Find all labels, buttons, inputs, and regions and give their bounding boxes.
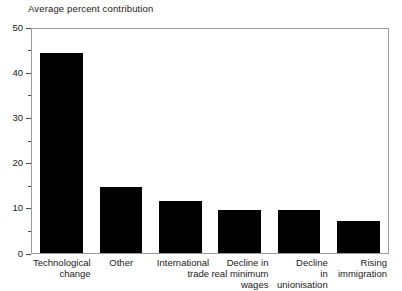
bar [337,221,380,253]
tick-mark [28,231,31,232]
tick-mark [28,141,31,142]
x-axis-label-line: immigration [330,268,387,279]
y-axis-tick-label: 0 [18,248,23,260]
bar-slot [91,29,150,253]
bars-layer [32,29,388,253]
x-axis-label-line: Other [93,257,150,268]
x-axis-label-line: Decline in [211,257,268,268]
bar-slot [269,29,328,253]
x-axis-label-line: real minimum [211,268,268,279]
bar-slot [329,29,388,253]
tick-mark [26,73,31,74]
tick-mark [26,118,31,119]
x-axis-category-label: Risingimmigration [329,257,388,279]
bar [159,201,202,253]
tick-mark [26,163,31,164]
bar-chart-figure: Average percent contribution 01020304050… [0,0,402,291]
y-axis-tick-label: 10 [12,202,23,214]
x-axis-category-label: Other [92,257,151,268]
bar [40,53,83,253]
tick-mark [28,186,31,187]
bar-slot [151,29,210,253]
y-axis-tick-label: 20 [12,157,23,169]
x-axis-label-line: wages [211,279,268,290]
y-axis: 01020304050 [0,28,31,254]
tick-mark [26,28,31,29]
x-axis-category-label: Declineinunionisation [269,257,328,290]
bar [100,187,143,253]
chart-title: Average percent contribution [28,3,154,15]
tick-mark [26,254,31,255]
x-axis-category-label: Internationaltrade [151,257,210,279]
bar-slot [32,29,91,253]
bar [218,210,261,253]
x-axis-label-line: Rising [330,257,387,268]
y-axis-tick-label: 50 [12,22,23,34]
x-axis-labels: TechnologicalchangeOtherInternationaltra… [32,257,388,290]
x-axis-label-line: change [33,268,91,279]
x-axis-category-label: Decline inreal minimumwages [210,257,269,290]
tick-mark [26,208,31,209]
x-axis-label-line: Technological [33,257,91,268]
x-axis-label-line: unionisation [270,279,327,290]
x-axis-label-line: Decline [270,257,327,268]
tick-mark [28,95,31,96]
x-axis-label-line: International [152,257,209,268]
tick-mark [28,50,31,51]
x-axis-label-line: in [270,268,327,279]
bar-slot [210,29,269,253]
y-axis-tick-label: 30 [12,112,23,124]
x-axis-category-label: Technologicalchange [32,257,92,279]
y-axis-tick-label: 40 [12,67,23,79]
bar [278,210,321,253]
x-axis-label-line: trade [152,268,209,279]
